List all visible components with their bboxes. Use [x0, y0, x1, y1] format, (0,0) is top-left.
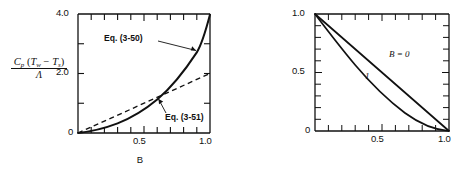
left-xtick-label-10: 1.0	[199, 136, 212, 146]
right-xtick-label-05: 0.5	[371, 134, 384, 144]
right-ytick-label-10: 1.0	[292, 8, 305, 18]
eq-3-50-leader	[158, 41, 196, 51]
right-x-ticks	[328, 124, 435, 131]
left-y-axis-title: Cp (Tw − Ts) Λ	[6, 56, 72, 81]
right-y-ticks	[315, 26, 322, 120]
left-y-ts-sub: s	[58, 61, 61, 69]
eq-3-51-arrow	[159, 99, 167, 113]
left-chart-panel: 4.0 2.0 0 0.5 1.0 B Cp (Tw − Ts) Λ Eq. (…	[0, 0, 238, 177]
left-y-cp-sub: p	[21, 61, 25, 69]
left-xtick-label-05: 0.5	[133, 136, 146, 146]
annotation-eq-3-50: Eq. (3-50)	[104, 34, 143, 43]
left-x-axis-title: B	[70, 155, 210, 165]
left-y-denominator: Λ	[11, 69, 67, 81]
left-y-minus: −	[41, 56, 52, 67]
left-ytick-label-4: 4.0	[56, 8, 69, 18]
right-ytick-label-05: 0.5	[292, 66, 305, 76]
left-chart-plot	[0, 0, 238, 177]
annotation-eq-3-51: Eq. (3-51)	[165, 113, 204, 122]
left-x-ticks-mirror	[91, 14, 197, 21]
right-ytick-label-0: 0	[305, 125, 310, 135]
left-y-close: )	[61, 56, 65, 67]
left-y-tw-sub: w	[36, 61, 41, 69]
left-ytick-label-0: 0	[68, 127, 73, 137]
curve-b-equals-zero	[315, 14, 449, 131]
left-y-ticks	[78, 44, 84, 104]
left-y-cp: C	[14, 56, 21, 67]
right-chart-plot	[237, 0, 475, 177]
right-xtick-label-10: 1.0	[438, 134, 451, 144]
left-y-ticks-mirror	[204, 44, 210, 104]
right-y-ticks-mirror	[442, 26, 449, 120]
curve-label-b-equals-one: 1	[365, 72, 370, 81]
right-x-ticks-mirror	[328, 14, 435, 21]
curve-eq-3-51	[78, 74, 210, 134]
figure-root: 4.0 2.0 0 0.5 1.0 B Cp (Tw − Ts) Λ Eq. (…	[0, 0, 475, 177]
right-chart-panel: 1.0 0.5 0 0.5 1.0 T − Ts Tw − Ts y L	[237, 0, 475, 177]
curve-label-b-equals-zero: B = 0	[389, 50, 410, 59]
